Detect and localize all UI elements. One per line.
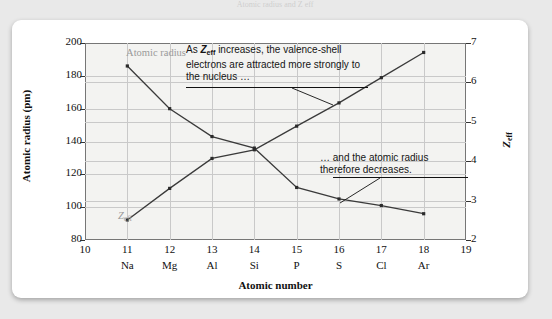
series-label-zeff: Zeff: [118, 210, 152, 224]
y-tick-left-120: 120: [48, 166, 82, 178]
y-tickmark-right: [466, 240, 471, 241]
y-tickmark-right: [466, 43, 471, 44]
x-tick-13: 13: [195, 243, 229, 255]
y-tick-right-5: 5: [471, 114, 495, 126]
y-tick-left-160: 160: [48, 101, 82, 113]
y-tickmark-left: [80, 174, 85, 175]
y-tickmark-left: [80, 240, 85, 241]
y-tickmark-right: [466, 122, 471, 123]
x-tick-12: 12: [153, 243, 187, 255]
x-tick-16: 16: [322, 243, 356, 255]
x-element-symbol-P: P: [280, 259, 314, 271]
y-tickmark-left: [80, 76, 85, 77]
x-element-symbol-Mg: Mg: [153, 259, 187, 271]
x-tick-14: 14: [237, 243, 271, 255]
y-tick-left-200: 200: [48, 35, 82, 47]
x-element-symbol-Si: Si: [237, 259, 271, 271]
chart-root: 80100120140160180200 234567 1011Na12Mg13…: [0, 0, 552, 319]
y-tickmark-left: [80, 142, 85, 143]
callout-leader-lines: [186, 88, 468, 204]
x-element-symbol-Na: Na: [110, 259, 144, 271]
series-label-atomic-radius: Atomic radius: [123, 47, 189, 58]
y-tick-right-3: 3: [471, 193, 495, 205]
x-tick-18: 18: [407, 243, 441, 255]
y-axis-right-title: Zeff: [500, 85, 514, 195]
x-tick-11: 11: [110, 243, 144, 255]
y-tick-left-140: 140: [48, 134, 82, 146]
zeff-symbol: Z: [500, 141, 512, 148]
y-axis-left-title: Atomic radius (pm): [20, 61, 32, 211]
x-tick-17: 17: [364, 243, 398, 255]
y-tick-right-7: 7: [471, 35, 495, 47]
x-tick-15: 15: [280, 243, 314, 255]
y-tickmark-right: [466, 82, 471, 83]
y-tick-right-4: 4: [471, 153, 495, 165]
y-tick-right-6: 6: [471, 74, 495, 86]
y-tickmark-left: [80, 207, 85, 208]
x-axis-title: Atomic number: [85, 279, 466, 291]
callout-zeff-increases: As Zeff increases, the valence-shell ele…: [186, 44, 376, 84]
x-element-symbol-Ar: Ar: [407, 259, 441, 271]
y-tick-left-180: 180: [48, 68, 82, 80]
x-element-symbol-S: S: [322, 259, 356, 271]
x-tick-19: 19: [449, 243, 483, 255]
y-tickmark-left: [80, 109, 85, 110]
y-tick-left-100: 100: [48, 199, 82, 211]
y-tickmark-left: [80, 43, 85, 44]
y-tickmark-right: [466, 201, 471, 202]
callout-radius-decreases: … and the atomic radius therefore decrea…: [320, 152, 470, 177]
x-element-symbol-Cl: Cl: [364, 259, 398, 271]
x-tick-10: 10: [68, 243, 102, 255]
x-element-symbol-Al: Al: [195, 259, 229, 271]
zeff-subscript: eff: [124, 214, 132, 223]
callout-text-pre: As: [186, 44, 200, 55]
zeff-subscript: eff: [505, 132, 514, 141]
